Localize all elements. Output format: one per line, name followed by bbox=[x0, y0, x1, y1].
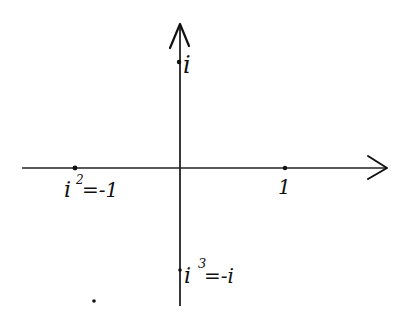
label-i-cubed: i 3 =-i bbox=[184, 256, 234, 288]
complex-plane-diagram: i 1 i 2 =-1 i 3 =-i bbox=[0, 0, 412, 327]
point-one bbox=[283, 166, 287, 170]
stray-dot bbox=[92, 299, 96, 303]
point-i-cubed bbox=[178, 268, 182, 272]
label-i-squared-base: i bbox=[64, 177, 71, 202]
label-i-squared: i 2 =-1 bbox=[64, 173, 118, 202]
label-i-cubed-rest: =-i bbox=[204, 264, 234, 288]
label-one: 1 bbox=[278, 175, 291, 199]
label-i-squared-rest: =-1 bbox=[82, 178, 118, 202]
point-i bbox=[177, 60, 181, 64]
label-i-cubed-base: i bbox=[184, 263, 191, 288]
point-i-squared bbox=[73, 166, 78, 171]
label-i: i bbox=[183, 51, 191, 79]
